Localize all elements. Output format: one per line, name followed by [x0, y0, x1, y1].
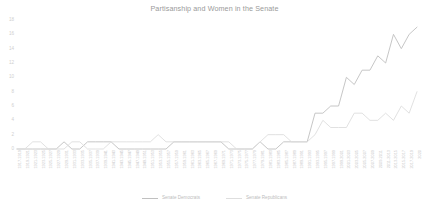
x-axis-tick-label: 1939-1941: [104, 150, 108, 169]
x-axis-tick-label: 1945-1947: [128, 150, 132, 169]
x-axis-tick-label: 2001-2003: [347, 150, 351, 169]
x-axis-tick-label: 1955-1957: [167, 150, 171, 169]
x-axis-tick-label: 1989-1991: [300, 150, 304, 169]
legend-item[interactable]: Senate Republicans: [226, 196, 287, 201]
x-axis-tick-label: 1969-1971: [222, 150, 226, 169]
x-axis-tick-label: 1963-1965: [198, 150, 202, 169]
legend-label: Senate Democrats: [162, 196, 200, 201]
x-axis-tick-label: 1967-1969: [214, 150, 218, 169]
x-axis-tick-label: 1985-1987: [285, 150, 289, 169]
x-axis-tick-label: 1965-1967: [206, 150, 210, 169]
x-axis-tick-label: 1923-1925: [42, 150, 46, 169]
x-axis-tick-label: 2017-2019: [410, 150, 414, 169]
x-axis-tick-label: 1921-1923: [34, 150, 38, 169]
x-axis-tick-label: 1941-1943: [112, 150, 116, 169]
chart-legend: Senate DemocratsSenate Republicans: [0, 192, 429, 204]
x-axis-ticks: 1917-19191919-19211921-19231923-19251925…: [17, 150, 417, 192]
legend-line-icon: [226, 198, 242, 199]
x-axis-tick-label: 1919-1921: [26, 150, 30, 169]
x-axis-tick-label: 1917-1919: [18, 150, 22, 169]
x-axis-tick-label: 1935-1937: [89, 150, 93, 169]
x-axis-tick-label: 1931-1933: [73, 150, 77, 169]
y-axis-tick-label: 4: [11, 118, 14, 123]
y-axis-tick-label: 6: [11, 104, 14, 109]
x-axis-tick-label: 1961-1963: [191, 150, 195, 169]
chart-container: Partisanship and Women in the Senate 024…: [0, 0, 429, 204]
x-axis-tick-label: 2007-2009: [371, 150, 375, 169]
x-axis-tick-label: 1933-1935: [81, 150, 85, 169]
series-line: [17, 92, 417, 149]
chart-title: Partisanship and Women in the Senate: [0, 4, 429, 13]
x-axis-tick-label: 1971-1973: [230, 150, 234, 169]
x-axis-tick-label: 1953-1955: [159, 150, 163, 169]
x-axis-tick-label: 1959-1961: [183, 150, 187, 169]
y-axis-tick-label: 14: [9, 46, 14, 51]
legend-item[interactable]: Senate Democrats: [142, 196, 200, 201]
y-axis-tick-label: 10: [9, 75, 14, 80]
x-axis-tick-label: 1987-1989: [293, 150, 297, 169]
series-line: [17, 27, 417, 149]
x-axis-tick-label: 1997-1999: [332, 150, 336, 169]
x-axis-tick-label: 2005-2007: [363, 150, 367, 169]
x-axis-tick-label: 1927-1929: [57, 150, 61, 169]
plot-area: 024681012141618: [17, 20, 417, 149]
y-axis-tick-label: 0: [11, 147, 14, 152]
y-axis-tick-label: 12: [9, 61, 14, 66]
x-axis-tick-label: 2020: [418, 150, 422, 159]
legend-label: Senate Republicans: [246, 196, 287, 201]
x-axis-tick-label: 1937-1939: [96, 150, 100, 169]
y-axis-tick-label: 2: [11, 132, 14, 137]
x-axis-tick-label: 1929-1931: [65, 150, 69, 169]
x-axis-tick-label: 2013-2015: [394, 150, 398, 169]
x-axis-tick-label: 1943-1945: [120, 150, 124, 169]
x-axis-tick-label: 1999-2001: [340, 150, 344, 169]
x-axis-tick-label: 1981-1983: [269, 150, 273, 169]
x-axis-tick-label: 1947-1949: [136, 150, 140, 169]
x-axis-tick-label: 1925-1927: [49, 150, 53, 169]
x-axis-tick-label: 2011-2013: [387, 150, 391, 168]
x-axis-tick-label: 1977-1979: [253, 150, 257, 169]
y-axis-tick-label: 16: [9, 32, 14, 37]
x-axis-tick-label: 1983-1985: [277, 150, 281, 169]
x-axis-tick-label: 1993-1995: [316, 150, 320, 169]
x-axis-tick-label: 2003-2005: [355, 150, 359, 169]
x-axis-tick-label: 1949-1951: [143, 150, 147, 169]
x-axis-tick-label: 1995-1997: [324, 150, 328, 169]
x-axis-tick-label: 1973-1975: [238, 150, 242, 169]
x-axis-tick-label: 1951-1953: [151, 150, 155, 169]
y-axis-tick-label: 8: [11, 89, 14, 94]
y-axis-tick-label: 18: [9, 18, 14, 23]
x-axis-tick-label: 1975-1977: [245, 150, 249, 169]
x-axis-tick-label: 2009-2011: [379, 150, 383, 168]
x-axis-tick-label: 2015-2017: [402, 150, 406, 169]
x-axis-tick-label: 1979-1981: [261, 150, 265, 169]
x-axis-tick-label: 1957-1959: [175, 150, 179, 169]
series-lines: [17, 20, 417, 149]
x-axis-tick-label: 1991-1993: [308, 150, 312, 169]
legend-line-icon: [142, 198, 158, 199]
